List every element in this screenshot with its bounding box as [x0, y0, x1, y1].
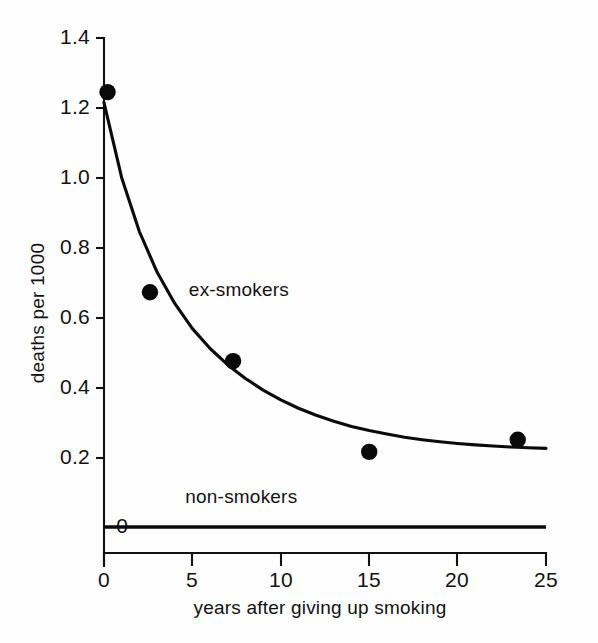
ex-smokers-label: ex-smokers: [189, 279, 289, 300]
y-tick-label-1.2: 1.2: [60, 95, 90, 118]
y-tick-label-1.4: 1.4: [60, 25, 90, 48]
x-tick-label-25: 25: [534, 568, 558, 591]
data-point: [142, 284, 158, 300]
data-point: [361, 444, 377, 460]
x-tick-label-10: 10: [269, 568, 293, 591]
y-tick-label-0.4: 0.4: [60, 375, 90, 398]
data-point: [225, 353, 241, 369]
x-tick-label-20: 20: [445, 568, 469, 591]
x-tick-label-5: 5: [186, 568, 198, 591]
non-smokers-label: non-smokers: [185, 486, 297, 507]
y-tick-label-0.8: 0.8: [60, 235, 90, 258]
x-axis-title: years after giving up smoking: [194, 597, 447, 618]
x-axis-tick-labels: 0 5 10 15 20 25: [98, 568, 558, 591]
x-tick-label-15: 15: [357, 568, 381, 591]
y-tick-label-0.2: 0.2: [60, 445, 90, 468]
data-point: [510, 431, 526, 447]
chart-canvas: 1.4 1.2 1.0 0.8 0.6 0.4 0.2 0 0 5 10 15 …: [0, 0, 598, 643]
ex-smokers-data-points: [99, 84, 526, 460]
data-point: [99, 84, 115, 100]
y-tick-label-0.6: 0.6: [60, 305, 90, 328]
y-axis-ticks: [96, 38, 104, 458]
figure-container: 1.4 1.2 1.0 0.8 0.6 0.4 0.2 0 0 5 10 15 …: [0, 0, 598, 643]
y-tick-label-0: 0: [116, 514, 128, 537]
y-axis-title: deaths per 1000: [27, 243, 48, 383]
ex-smokers-fitted-curve: [104, 103, 546, 449]
x-tick-label-0: 0: [98, 568, 110, 591]
x-axis-ticks: [104, 553, 546, 566]
y-tick-label-1.0: 1.0: [60, 165, 90, 188]
y-axis-tick-labels: 1.4 1.2 1.0 0.8 0.6 0.4 0.2 0: [60, 25, 128, 537]
